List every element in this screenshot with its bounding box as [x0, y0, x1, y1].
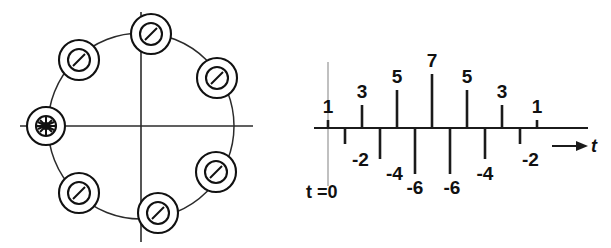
stem-plot-panel: t 1 -2 3 -4: [300, 0, 611, 248]
marker-core-dot: [42, 122, 50, 130]
stem-sample-7[interactable]: -6: [444, 128, 461, 198]
stem-sample-11[interactable]: -2: [520, 128, 539, 170]
stem-sample-3[interactable]: -4: [380, 128, 403, 184]
stem-value-label: -6: [407, 177, 424, 198]
zero-marker-lower-right[interactable]: [196, 152, 236, 192]
stem-sample-0[interactable]: 1: [323, 96, 334, 128]
stem-sample-10[interactable]: 3: [497, 81, 508, 128]
stem-value-label: 1: [532, 96, 543, 117]
stem-sample-12[interactable]: 1: [532, 96, 543, 128]
stem-value-label: 5: [392, 66, 403, 87]
stem-value-label: -6: [444, 177, 461, 198]
stem-value-label: -4: [477, 163, 494, 184]
stem-value-label: -2: [522, 149, 539, 170]
stem-sample-6[interactable]: 7: [427, 50, 438, 128]
t-axis-arrow: [552, 141, 588, 151]
stem-value-label: -2: [352, 149, 369, 170]
stem-plot-svg: t 1 -2 3 -4: [300, 0, 611, 248]
stem-sample-1[interactable]: -2: [345, 128, 369, 170]
stem-sample-4[interactable]: 5: [392, 66, 403, 128]
zero-plot-panel: [0, 0, 300, 248]
t-origin-annotation: t =0: [306, 182, 338, 202]
stem-value-label: 3: [497, 81, 508, 102]
figure-root: t 1 -2 3 -4: [0, 0, 611, 248]
zero-marker-lower-left[interactable]: [59, 173, 99, 213]
zero-marker-upper-left[interactable]: [59, 40, 99, 80]
stem-value-label: 5: [462, 66, 473, 87]
zero-plot-svg: [0, 0, 300, 248]
zero-marker-top[interactable]: [131, 14, 171, 54]
zero-marker-left-multiple-order[interactable]: [27, 107, 65, 145]
stem-sample-9[interactable]: -4: [477, 128, 494, 184]
stem-sample-8[interactable]: 5: [462, 66, 473, 128]
stem-sample-5[interactable]: -6: [407, 128, 424, 198]
zero-marker-bottom[interactable]: [138, 193, 178, 233]
stem-value-label: -4: [386, 163, 403, 184]
stem-value-label: 1: [323, 96, 334, 117]
stem-sample-2[interactable]: 3: [357, 81, 368, 128]
t-axis-label: t: [591, 136, 598, 156]
zero-marker-upper-right[interactable]: [197, 58, 237, 98]
arrow-head-icon: [576, 141, 588, 151]
stem-value-label: 7: [427, 50, 438, 71]
stem-value-label: 3: [357, 81, 368, 102]
